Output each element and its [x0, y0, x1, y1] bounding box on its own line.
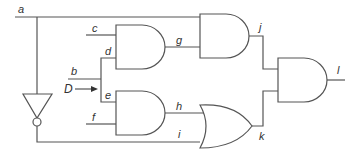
label-h: h	[176, 100, 182, 112]
label-l: l	[337, 64, 340, 76]
label-D: D	[64, 82, 73, 96]
label-c: c	[92, 22, 98, 34]
wire-d	[101, 58, 116, 79]
or-gate	[200, 105, 252, 148]
label-a: a	[18, 3, 24, 15]
and-gate-1	[116, 25, 165, 69]
wire-k	[252, 91, 278, 126]
label-i: i	[178, 128, 181, 140]
inverter-bubble-icon	[33, 118, 41, 126]
label-b: b	[71, 65, 77, 77]
not-gate	[23, 94, 52, 118]
arrow-head-icon	[91, 86, 98, 92]
label-k: k	[259, 130, 265, 142]
and-gate-4	[278, 58, 327, 102]
and-gate-2	[116, 91, 165, 135]
label-j: j	[257, 21, 262, 33]
label-e: e	[105, 89, 111, 101]
logic-circuit-diagram: a c d b D e f g h i j k l	[0, 0, 362, 156]
label-d: d	[105, 45, 112, 57]
and-gate-3	[200, 14, 249, 58]
label-f: f	[92, 111, 96, 123]
label-g: g	[176, 34, 183, 46]
wire-j	[249, 36, 278, 69]
